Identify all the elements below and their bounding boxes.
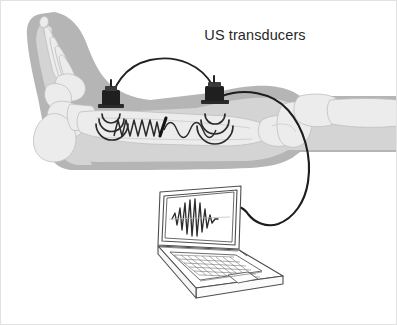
page-title: US transducers <box>175 27 335 43</box>
laptop-computer[interactable] <box>158 186 283 298</box>
transmitter-body <box>102 90 120 105</box>
receiver-body <box>205 86 224 101</box>
illustration-canvas <box>0 0 397 325</box>
femur-shaft <box>327 99 397 128</box>
figure-container: US transducers <box>0 0 397 325</box>
